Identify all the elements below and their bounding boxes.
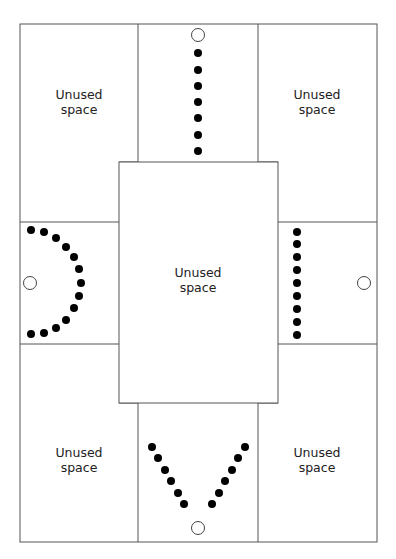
seat-dot-icon [167,477,175,485]
bottom-seating-section [148,443,249,535]
seat-dot-icon [27,226,35,234]
seat-dot-icon [27,330,35,338]
seat-dot-icon [241,443,249,451]
seat-dot-icon [221,477,229,485]
seat-dot-icon [40,228,48,236]
seat-dot-icon [194,147,202,155]
seat-dot-icon [293,331,301,339]
seat-dot-icon [148,443,156,451]
right-seating-section [293,228,371,339]
layout-diagram: Unused space Unused space Unused space U… [0,0,396,559]
seat-dot-icon [77,279,85,287]
seat-dot-icon [180,500,188,508]
seat-dot-icon [62,243,70,251]
seat-dot-icon [208,500,216,508]
seat-dot-icon [161,466,169,474]
seat-dot-icon [293,305,301,313]
label-top-left: Unused space [34,87,124,117]
seat-dot-icon [70,304,78,312]
seat-dot-icon [293,253,301,261]
seat-dot-icon [62,316,70,324]
label-line: Unused [272,87,362,102]
seat-dot-icon [293,266,301,274]
seat-dot-icon [293,228,301,236]
seat-dot-icon [194,66,202,74]
seat-dot-icon [194,98,202,106]
label-line: space [34,102,124,117]
seat-dot-icon [293,279,301,287]
open-circle-icon [192,522,205,535]
seat-dot-icon [70,253,78,261]
label-line: Unused [34,87,124,102]
open-circle-icon [192,29,205,42]
seat-dot-icon [154,454,162,462]
label-line: Unused [34,445,124,460]
seat-dot-icon [194,82,202,90]
label-top-right: Unused space [272,87,362,117]
seat-dot-icon [194,131,202,139]
label-line: Unused [153,265,243,280]
top-seating-section [192,29,205,156]
seat-dot-icon [293,318,301,326]
label-bottom-left: Unused space [34,445,124,475]
label-line: space [153,280,243,295]
label-line: space [272,102,362,117]
open-circle-icon [358,277,371,290]
seat-dot-icon [40,329,48,337]
seat-dot-icon [75,292,83,300]
label-line: space [34,460,124,475]
seat-dot-icon [215,489,223,497]
seat-dot-icon [234,454,242,462]
open-circle-icon [24,277,37,290]
seat-dot-icon [174,489,182,497]
label-center: Unused space [153,265,243,295]
seat-dot-icon [194,114,202,122]
left-seating-section [24,226,86,338]
seat-dot-icon [293,240,301,248]
seat-dot-icon [194,49,202,57]
seat-dot-icon [293,292,301,300]
seat-dot-icon [52,234,60,242]
seat-dot-icon [228,466,236,474]
label-line: Unused [272,445,362,460]
seat-dot-icon [75,265,83,273]
label-line: space [272,460,362,475]
label-bottom-right: Unused space [272,445,362,475]
seat-dot-icon [52,324,60,332]
